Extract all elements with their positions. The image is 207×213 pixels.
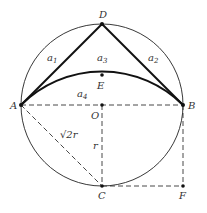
dashed-ac bbox=[21, 105, 102, 186]
point-o bbox=[100, 103, 104, 107]
label-e: E bbox=[96, 80, 105, 91]
point-d bbox=[100, 22, 104, 26]
segment-ad bbox=[21, 24, 102, 105]
geometry-diagram: D A B E O C F a1 a3 a2 a4 √2r r bbox=[0, 0, 207, 213]
point-b bbox=[181, 103, 185, 107]
point-e bbox=[100, 73, 104, 77]
label-d: D bbox=[98, 9, 107, 20]
segment-db bbox=[102, 24, 183, 105]
label-ac-length: √2r bbox=[60, 129, 79, 140]
label-a3: a3 bbox=[97, 52, 108, 65]
label-b: B bbox=[187, 100, 195, 111]
point-c bbox=[100, 184, 104, 188]
label-a1: a1 bbox=[47, 52, 57, 65]
label-o: O bbox=[91, 110, 99, 121]
label-oc-length: r bbox=[93, 140, 99, 151]
point-f bbox=[181, 184, 185, 188]
label-a: A bbox=[9, 100, 17, 111]
label-c: C bbox=[98, 190, 106, 201]
label-a4: a4 bbox=[77, 88, 87, 101]
point-a bbox=[19, 103, 23, 107]
label-a2: a2 bbox=[148, 52, 159, 65]
label-f: F bbox=[178, 190, 187, 201]
